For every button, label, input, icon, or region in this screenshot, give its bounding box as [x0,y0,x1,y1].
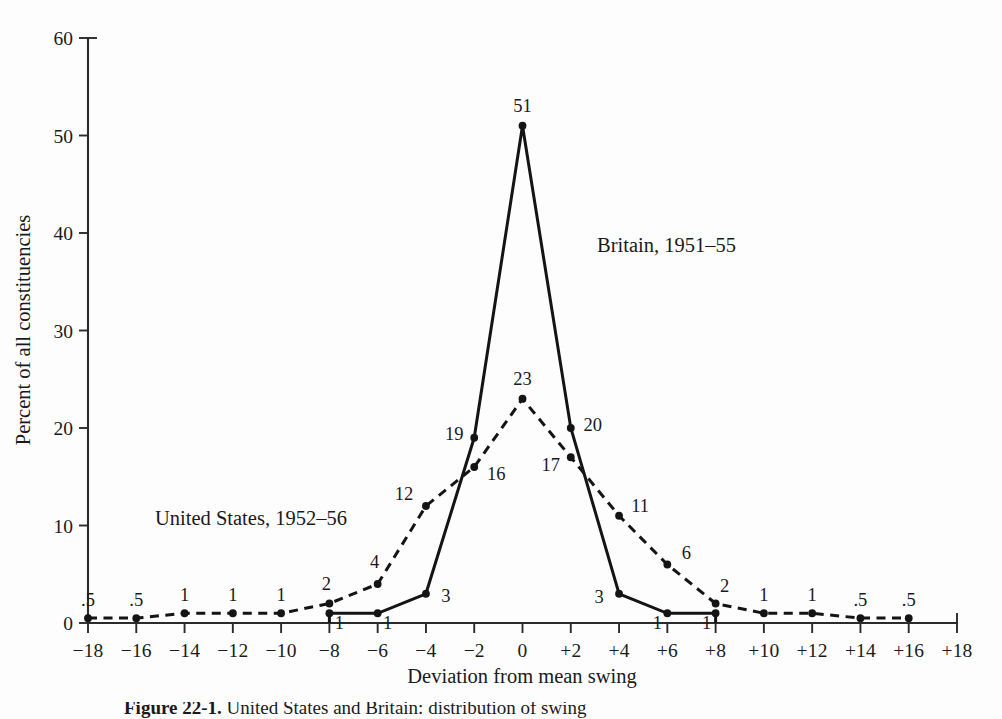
data-point-label-britain: 1 [702,613,711,633]
axes-group: 0102030405060−18−16−14−12−10−8−6−4−20+2+… [54,28,973,661]
data-point-label-britain: 20 [584,415,603,435]
data-point-united-states [470,463,478,471]
point-labels-group: 113195120311.5.51112412162317116211.5.5 [81,96,916,634]
x-tick-label: −18 [72,640,103,661]
figure-caption-text: United States and Britain: distribution … [227,702,587,718]
data-point-label-britain: 1 [335,613,344,633]
data-point-united-states [374,580,382,588]
x-tick-label: −12 [217,640,248,661]
data-point-label-united-states: 12 [395,484,414,504]
x-tick-label: +4 [608,640,629,661]
x-tick-label: 0 [518,640,528,661]
data-point-britain [422,590,430,598]
data-point-united-states [808,609,816,617]
data-point-label-united-states: 23 [513,369,532,389]
series-label-united-states: United States, 1952–56 [155,507,347,529]
data-point-united-states [615,512,623,520]
data-point-label-united-states: 16 [487,464,506,484]
data-point-united-states [277,609,285,617]
x-tick-label: +16 [893,640,924,661]
y-tick-label: 60 [54,28,74,49]
x-tick-label: −6 [367,640,388,661]
data-point-britain [615,590,623,598]
data-point-label-united-states: 1 [276,585,285,605]
data-point-label-united-states: 2 [322,574,331,594]
data-point-label-britain: 1 [653,613,662,633]
data-point-britain [470,434,478,442]
x-tick-label: +12 [797,640,828,661]
data-point-label-britain: 3 [441,586,450,606]
data-point-united-states [663,561,671,569]
x-tick-label: +6 [657,640,678,661]
data-point-label-united-states: 11 [631,496,649,516]
data-point-united-states [84,614,92,622]
data-point-label-united-states: 4 [370,552,379,572]
y-tick-label: 40 [54,223,74,244]
y-tick-label: 20 [54,418,74,439]
data-point-united-states [857,614,865,622]
data-point-britain [712,609,720,617]
figure-caption: Figure 22-1. United States and Britain: … [0,702,1002,719]
data-point-label-britain: 1 [383,613,392,633]
data-point-label-united-states: 1 [759,585,768,605]
x-tick-label: −8 [319,640,340,661]
x-tick-label: −4 [415,640,436,661]
data-point-britain [325,609,333,617]
data-point-label-britain: 3 [594,587,603,607]
distribution-of-swing-chart: 0102030405060−18−16−14−12−10−8−6−4−20+2+… [0,0,1002,719]
data-point-united-states [519,395,527,403]
data-point-united-states [567,453,575,461]
series-group [84,122,913,623]
data-point-united-states [181,609,189,617]
data-point-britain [374,609,382,617]
data-point-britain [663,609,671,617]
y-tick-label: 30 [54,321,74,342]
data-point-united-states [325,600,333,608]
x-tick-label: +10 [748,640,779,661]
x-axis-title: Deviation from mean swing [407,665,636,688]
data-point-label-united-states: 2 [720,576,729,596]
x-tick-label: +18 [941,640,972,661]
data-point-britain [519,122,527,130]
data-point-label-united-states: .5 [81,590,95,610]
x-tick-label: +8 [705,640,726,661]
data-point-united-states [760,609,768,617]
figure-container: 0102030405060−18−16−14−12−10−8−6−4−20+2+… [0,0,1002,719]
figure-caption-label: Figure 22-1. [124,702,222,718]
data-point-label-united-states: .5 [853,590,867,610]
data-point-label-britain: 19 [445,424,464,444]
data-point-label-britain: 51 [513,96,532,116]
x-tick-label: −14 [169,640,200,661]
x-tick-label: +2 [560,640,581,661]
data-point-united-states [905,614,913,622]
data-point-label-united-states: 1 [228,585,237,605]
x-tick-label: −10 [266,640,297,661]
data-point-label-united-states: 1 [180,585,189,605]
data-point-label-united-states: 6 [682,543,691,563]
data-point-united-states [229,609,237,617]
y-tick-label: 50 [54,126,74,147]
data-point-britain [567,424,575,432]
data-point-united-states [132,614,140,622]
y-tick-label: 0 [63,613,73,634]
y-tick-label: 10 [54,516,74,537]
data-point-united-states [712,600,720,608]
data-point-label-united-states: .5 [902,590,916,610]
y-axis-title: Percent of all constituencies [12,215,34,446]
data-point-label-united-states: 17 [542,455,561,475]
series-annotations-group: Britain, 1951–55 United States, 1952–56 [155,234,736,529]
x-tick-label: −16 [121,640,152,661]
data-point-label-united-states: .5 [129,590,143,610]
data-point-united-states [422,502,430,510]
x-tick-label: +14 [845,640,876,661]
x-tick-label: −2 [464,640,485,661]
series-label-britain: Britain, 1951–55 [597,234,736,256]
data-point-label-united-states: 1 [808,585,817,605]
